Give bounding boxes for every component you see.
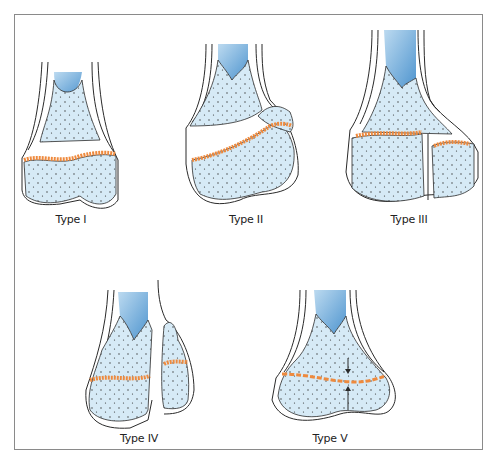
type-1-label: Type I (56, 213, 87, 226)
type-2-label: Type II (229, 213, 263, 226)
type-5-label: Type V (312, 432, 347, 445)
type-4-diagram (86, 280, 194, 428)
type-4-label: Type IV (120, 432, 158, 445)
type-3-label: Type III (391, 213, 428, 226)
type-2-diagram (186, 44, 298, 204)
type-1-diagram (22, 62, 118, 208)
type-3-diagram (346, 30, 478, 201)
type-5-diagram (272, 290, 395, 420)
fracture-diagrams (0, 0, 498, 466)
